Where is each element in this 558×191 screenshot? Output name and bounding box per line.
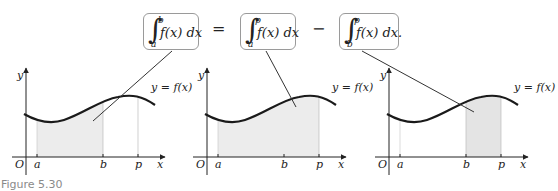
- leader-line-2: [266, 51, 296, 107]
- figure-caption: Figure 5.30: [1, 178, 63, 191]
- y-axis-label: y: [379, 69, 387, 82]
- b-label: b: [463, 158, 470, 171]
- x-axis-label: x: [157, 158, 164, 171]
- b-label: b: [281, 158, 288, 171]
- x-axis-label: x: [520, 158, 527, 171]
- leader-line-3: [362, 51, 474, 112]
- shaded-region-2: [218, 96, 319, 157]
- curve-label: y = f(x): [150, 81, 192, 94]
- lower-limit: a: [151, 39, 156, 49]
- p-label: p: [316, 158, 323, 171]
- lower-limit: b: [347, 39, 353, 49]
- minus-sign: −: [312, 19, 325, 38]
- curve-label: y = f(x): [331, 81, 373, 94]
- origin-label: O: [378, 158, 387, 171]
- y-axis-label: y: [16, 69, 24, 82]
- p-label: p: [135, 158, 142, 171]
- panel-1: O a b p x y y = f(x): [12, 51, 192, 175]
- a-label: a: [34, 158, 41, 171]
- shaded-region-3: [466, 96, 501, 157]
- integrand: f(x) dx: [257, 25, 299, 40]
- origin-label: O: [196, 158, 205, 171]
- origin-label: O: [15, 158, 24, 171]
- integral-box-a-to-p: ∫ p a f(x) dx: [240, 13, 296, 50]
- x-axis-label: x: [338, 158, 345, 171]
- upper-limit: p: [354, 15, 360, 25]
- integral-box-b-to-p: ∫ p b f(x) dx.: [339, 13, 399, 50]
- curve-label: y = f(x): [513, 81, 555, 94]
- integrand: f(x) dx.: [356, 25, 402, 40]
- b-label: b: [100, 158, 107, 171]
- lower-limit: a: [248, 39, 253, 49]
- equals-sign: =: [212, 19, 225, 38]
- a-label: a: [397, 158, 404, 171]
- integral-box-a-to-b: ∫ b a f(x) dx: [143, 13, 199, 50]
- p-label: p: [498, 158, 505, 171]
- panel-3: O a b p x y y = f(x): [375, 68, 555, 175]
- upper-limit: p: [255, 15, 261, 25]
- integrand: f(x) dx: [160, 25, 202, 40]
- a-label: a: [215, 158, 222, 171]
- shaded-region-1: [37, 102, 103, 157]
- upper-limit: b: [158, 15, 164, 25]
- y-axis-label: y: [197, 69, 205, 82]
